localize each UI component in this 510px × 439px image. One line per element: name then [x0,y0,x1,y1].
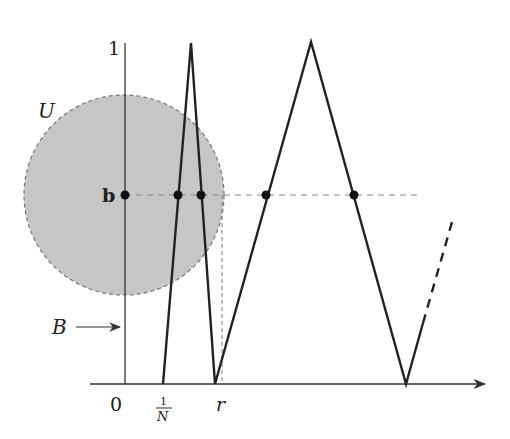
one-over-n-denominator: N [156,409,169,424]
one-over-n-numerator: 1 [160,395,167,408]
graph-continuation-dashed [423,222,452,323]
B-label: B [51,315,67,339]
y-top-label: 1 [108,37,120,59]
r-label: r [216,393,227,415]
point-b [121,191,130,200]
intersection-point-1 [174,191,183,200]
intersection-point-3 [262,191,271,200]
U-label: U [38,99,56,123]
intersection-point-4 [350,191,359,200]
b-label: b [102,184,115,206]
diagram-canvas: 1 0 1 N r b U B [0,0,510,439]
graph-polyline [163,42,423,384]
intersection-point-2 [197,191,206,200]
origin-label: 0 [110,393,122,415]
